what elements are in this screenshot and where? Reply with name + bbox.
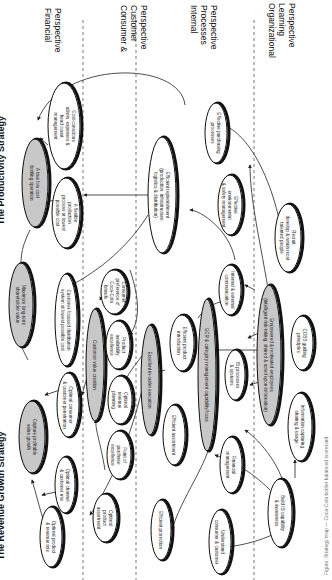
svg-text:Consumer: Consumer (121, 281, 126, 303)
svg-text:process at lowest: process at lowest (61, 195, 66, 231)
svg-text:Effective purchasing: Effective purchasing (216, 112, 221, 154)
svg-text:communication: communication (224, 275, 229, 306)
node-environmental-safety: Effective environmental & safety managem… (218, 175, 244, 235)
svg-text:Optimal: Optimal (123, 392, 128, 408)
node-efficient-promotion: Efficient promotion (151, 500, 173, 560)
node-optimal-product-assortment: Optimal product assortment (93, 494, 119, 542)
svg-text:Perspective: Perspective (53, 8, 63, 53)
node-ecr-category: ECR & category management capability/foc… (198, 299, 218, 451)
svg-text:Understand: Understand (220, 530, 225, 554)
svg-text:Processes: Processes (199, 5, 209, 45)
svg-text:environmental: environmental (227, 191, 232, 220)
svg-text:Efficient replenishment: Efficient replenishment (165, 172, 170, 219)
svg-text:excellence: excellence (109, 334, 114, 356)
svg-text:Learning: Learning (277, 3, 287, 36)
node-information-capturing: Information capturing, sharing & usage (288, 393, 314, 461)
node-build-is-capability: Build IS capability & awareness (268, 479, 294, 547)
svg-text:Build IS capability: Build IS capability (280, 495, 285, 532)
title-revenue-growth-strategy: The Revenue Growth Strategy (0, 431, 6, 560)
svg-text:(intelligent risk-taking, shar: (intelligent risk-taking, shared & acted… (263, 298, 268, 412)
svg-text:Optimal: Optimal (108, 510, 113, 526)
svg-text:product: product (102, 510, 107, 526)
svg-text:Perspective: Perspective (139, 5, 149, 50)
svg-text:Customer-focused distribution: Customer-focused distribution (66, 289, 71, 350)
node-internal-external-comm: Internal & external communication (219, 265, 243, 315)
node-customer-value-creation: Customer value creation (86, 309, 106, 421)
svg-text:brands: brands (103, 285, 108, 300)
node-optimal-product-mix: Optimal product & revenue mix (40, 507, 64, 567)
node-excellent-in-outlet: Excellent in-outlet execution (141, 325, 161, 435)
svg-text:assortment: assortment (96, 507, 101, 530)
svg-text:Product: Product (121, 337, 126, 354)
svg-text:The Productivity Strategy: The Productivity Strategy (0, 116, 6, 225)
svg-text:production: production (67, 202, 72, 224)
svg-text:& customer mix: & customer mix (59, 469, 64, 501)
svg-text:head count: head count (59, 115, 64, 138)
node-recruit-develop: Recruit, develop & retain most talented … (275, 204, 303, 272)
svg-text:A flexible: A flexible (73, 204, 78, 223)
figure-caption: Figure: Strategy map — Coca-Cola bottler… (323, 436, 329, 575)
svg-text:purchase: purchase (116, 446, 121, 465)
svg-text:logistics & distribution): logistics & distribution) (153, 172, 158, 218)
node-cost-conscious: Cost-conscious admin, expenses & head co… (48, 83, 82, 169)
svg-text:Perspective: Perspective (287, 3, 297, 48)
node-efficient-replenishment: Efficient replenishment (production, inf… (148, 137, 178, 253)
svg-text:Financial: Financial (231, 456, 236, 474)
svg-text:IS processes: IS processes (235, 362, 240, 389)
node-optimal-channel-mix: Optimal channel & customer mix (55, 457, 77, 513)
svg-text:excellence: excellence (110, 444, 115, 466)
svg-text:possible cost: possible cost (55, 200, 60, 227)
svg-text:develop & retain most: develop & retain most (285, 216, 290, 261)
svg-text:introduction: introduction (176, 331, 181, 355)
perspective-consumer: Consumer & Customer Perspective (119, 5, 149, 53)
svg-text:Financial: Financial (43, 8, 53, 42)
svg-text:Customer value creation: Customer value creation (92, 340, 97, 390)
svg-text:sharing & usage: sharing & usage (294, 410, 299, 444)
svg-text:Coca-Cola: Coca-Cola (109, 281, 114, 303)
svg-text:management: management (53, 113, 58, 141)
svg-text:A true low cost: A true low cost (35, 168, 40, 199)
svg-text:Efficient assortment: Efficient assortment (171, 415, 176, 456)
node-effective-purchasing: Effective purchasing processes (205, 103, 229, 163)
svg-text:Consumer &: Consumer & (119, 5, 129, 53)
svg-text:shareholder value: shareholder value (15, 287, 20, 324)
svg-text:ECR & category management capa: ECR & category management capability/foc… (204, 328, 209, 422)
svg-text:(production, infrastructure,: (production, infrastructure, (159, 168, 164, 222)
svg-text:value growth: value growth (26, 424, 31, 450)
svg-text:Optimal channel: Optimal channel (65, 468, 70, 501)
svg-text:Empowered & motivated employee: Empowered & motivated employees (269, 318, 274, 392)
node-low-cost-bottling: A true low cost bottling operation (22, 139, 50, 227)
svg-text:Optimal product: Optimal product (51, 521, 56, 554)
svg-text:& revenue mix: & revenue mix (45, 522, 50, 552)
svg-text:Capture profitable: Capture profitable (32, 419, 37, 456)
node-optimal-consumer-penetration: Optimal consumer & customer penetration (57, 373, 81, 437)
svg-text:system at lowest possible cost: system at lowest possible cost (60, 289, 65, 352)
svg-text:admin, expenses &: admin, expenses & (65, 106, 70, 145)
svg-text:The Revenue Growth Strategy: The Revenue Growth Strategy (0, 431, 6, 560)
svg-text:& safety management: & safety management (221, 183, 226, 228)
svg-text:Efficient promotion: Efficient promotion (158, 511, 163, 549)
node-customer-focused-distribution: Customer-focused distribution system at … (55, 274, 79, 366)
svg-text:Recruit,: Recruit, (291, 230, 296, 246)
node-is-processes: IS processes & systems (225, 350, 247, 400)
svg-text:talented people: talented people (279, 222, 284, 254)
title-productivity-strategy: The Productivity Strategy (0, 116, 6, 225)
svg-text:COBS guiding: COBS guiding (302, 328, 307, 358)
node-financial-management: Financial management (220, 437, 244, 493)
svg-text:Information capturing,: Information capturing, (300, 405, 305, 449)
svg-text:Perspective: Perspective (209, 5, 219, 50)
svg-text:Customer: Customer (129, 5, 139, 42)
perspective-learning: Organizational Learning Perspective (267, 3, 297, 58)
node-consumer-preference: Consumer preference of Coca-Cola brands (101, 270, 129, 314)
svg-text:Maximize long-term: Maximize long-term (21, 285, 26, 325)
svg-text:Figure: Strategy map — Coca-Co: Figure: Strategy map — Coca-Cola bottler… (323, 436, 329, 575)
perspective-financial: Financial Perspective (43, 8, 63, 53)
node-empowered-employees: Empowered & motivated employees (intelli… (257, 285, 283, 425)
svg-text:Excellent in-outlet execution: Excellent in-outlet execution (147, 351, 152, 409)
svg-text:Efficient product: Efficient product (182, 327, 187, 361)
svg-text:preference of: preference of (115, 278, 120, 306)
node-maximize-value: Maximize long-term shareholder value (9, 263, 35, 347)
svg-text:Organizational: Organizational (267, 3, 277, 58)
node-capture-profitable: Capture profitable value growth (19, 401, 47, 473)
node-optimal-revenue-planning: Optimal revenue planning (108, 376, 134, 424)
